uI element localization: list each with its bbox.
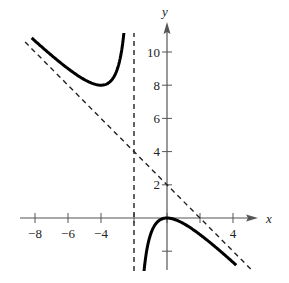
x-tick-label: −8 (28, 226, 42, 241)
y-tick-label: 2 (154, 177, 161, 192)
x-tick-label: 4 (230, 226, 237, 241)
function-graph: −8−6−44246810xy (0, 0, 289, 283)
tick-labels: −8−6−44246810xy (28, 4, 272, 241)
curves (25, 0, 256, 274)
y-tick-label: 8 (154, 78, 161, 93)
right-branch-curve (144, 218, 236, 272)
x-axis-label: x (265, 211, 272, 226)
y-axis-label: y (160, 4, 168, 19)
y-tick-label: 4 (154, 144, 161, 159)
left-branch-curve (32, 0, 128, 85)
x-tick-label: −6 (61, 226, 75, 241)
y-tick-label: 10 (147, 45, 160, 60)
y-tick-label: 6 (154, 111, 161, 126)
slant-asymptote (25, 42, 256, 274)
x-tick-label: −4 (94, 226, 108, 241)
